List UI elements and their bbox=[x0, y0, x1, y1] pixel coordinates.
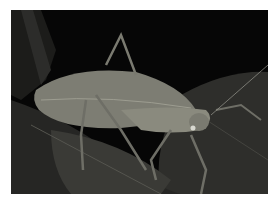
katydid-illustration bbox=[11, 10, 268, 194]
photo-katydid bbox=[11, 10, 268, 194]
